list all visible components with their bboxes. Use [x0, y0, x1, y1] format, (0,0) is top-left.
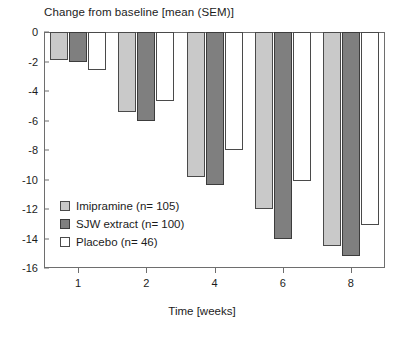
bar: [323, 32, 341, 246]
legend-swatch-icon: [60, 219, 70, 229]
x-axis-tick-mark: [283, 268, 284, 273]
legend-item: Imipramine (n= 105): [60, 197, 184, 215]
bar: [137, 32, 155, 121]
legend-item-label: SJW extract (n= 100): [76, 218, 184, 230]
x-axis-tick-mark: [351, 268, 352, 273]
y-axis-tick-label: -16: [22, 262, 38, 274]
bar: [187, 32, 205, 177]
y-axis-tick-mark: [44, 120, 49, 121]
legend-swatch-icon: [60, 237, 70, 247]
bar: [69, 32, 87, 62]
chart-legend: Imipramine (n= 105)SJW extract (n= 100)P…: [60, 197, 184, 251]
y-axis-tick-mark: [44, 91, 49, 92]
y-axis-tick-mark: [44, 61, 49, 62]
x-axis-tick-mark: [78, 268, 79, 273]
y-axis-tick-label: 0: [32, 26, 38, 38]
bar: [206, 32, 224, 185]
x-axis-tick-mark: [215, 268, 216, 273]
legend-swatch-icon: [60, 201, 70, 211]
bar: [156, 32, 174, 101]
bar: [225, 32, 243, 150]
chart-title: Change from baseline [mean (SEM)]: [44, 6, 234, 18]
y-axis-tick-label: -2: [28, 56, 38, 68]
bar: [274, 32, 292, 239]
x-axis-tick-mark: [146, 268, 147, 273]
x-axis-tick-label: 6: [280, 277, 286, 289]
y-axis-tick-mark: [44, 238, 49, 239]
y-axis-tick-label: -10: [22, 174, 38, 186]
bar: [255, 32, 273, 209]
y-axis-tick-label: -12: [22, 203, 38, 215]
x-axis-title: Time [weeks]: [0, 305, 404, 317]
x-axis-tick-label: 1: [75, 277, 81, 289]
y-axis-tick-label: -8: [28, 144, 38, 156]
y-axis-tick-mark: [44, 179, 49, 180]
bar: [50, 32, 68, 60]
y-axis-tick-mark: [44, 268, 49, 269]
legend-item: SJW extract (n= 100): [60, 215, 184, 233]
x-axis-tick-label: 2: [143, 277, 149, 289]
bar: [342, 32, 360, 256]
y-axis-tick-label: -6: [28, 115, 38, 127]
bar: [118, 32, 136, 112]
bar-chart-figure: Change from baseline [mean (SEM)] 0-2-4-…: [0, 0, 404, 337]
bar: [293, 32, 311, 181]
legend-item-label: Imipramine (n= 105): [76, 200, 179, 212]
x-axis-tick-label: 4: [211, 277, 217, 289]
y-axis-tick-label: -4: [28, 85, 38, 97]
bar: [88, 32, 106, 70]
legend-item-label: Placebo (n= 46): [76, 236, 158, 248]
bar: [361, 32, 379, 225]
y-axis-tick-label: -14: [22, 233, 38, 245]
legend-item: Placebo (n= 46): [60, 233, 184, 251]
x-axis-tick-label: 8: [348, 277, 354, 289]
y-axis-tick-mark: [44, 150, 49, 151]
y-axis-tick-mark: [44, 32, 49, 33]
y-axis-tick-mark: [44, 209, 49, 210]
